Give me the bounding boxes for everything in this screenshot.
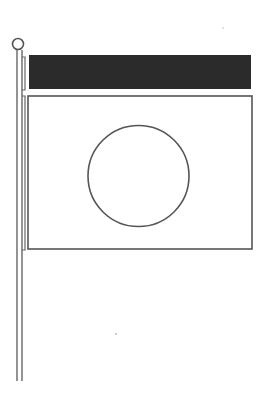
flag-drawing [0,0,259,400]
speck [115,333,117,335]
flag-dark-band [29,55,251,89]
speck [222,27,224,29]
pole-finial [13,39,24,50]
